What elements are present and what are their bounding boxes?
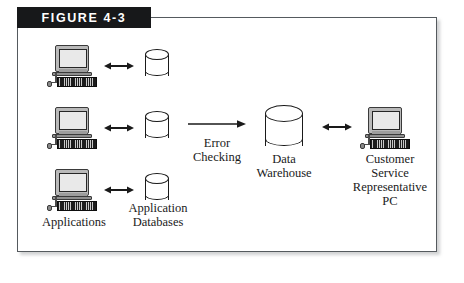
cylinder-side-right: [168, 116, 169, 138]
connector-databases-to-warehouse: [188, 118, 246, 130]
mouse-icon: [47, 205, 52, 211]
cylinder-top-ellipse: [145, 49, 169, 60]
monitor-screen: [372, 111, 400, 130]
connector-ws2-db2: [104, 122, 134, 134]
monitor-icon: [55, 169, 89, 196]
monitor-base: [52, 134, 92, 138]
data-warehouse: [265, 113, 303, 146]
cylinder-side-right: [302, 113, 303, 146]
customer-service-pc-label: Customer Service Representative PC: [337, 152, 443, 208]
connector-ws3-db3: [104, 184, 134, 196]
figure-page: FIGURE 4-3: [0, 0, 464, 283]
keyboard-icon: [57, 139, 97, 149]
cylinder-top-ellipse: [145, 173, 169, 184]
connector-warehouse-to-csr: [322, 121, 352, 133]
mouse-icon: [47, 143, 52, 149]
monitor-screen: [59, 49, 87, 68]
monitor-icon: [55, 45, 89, 72]
cylinder-top-ellipse: [265, 105, 303, 122]
figure-number-label: FIGURE 4-3: [42, 11, 127, 25]
monitor-screen: [59, 111, 87, 130]
monitor-icon: [55, 107, 89, 134]
keyboard-icon: [57, 201, 97, 211]
monitor-screen: [59, 173, 87, 192]
cylinder-side-right: [168, 54, 169, 76]
application-database-1: [145, 54, 169, 76]
application-databases-label: Application Databases: [118, 201, 198, 229]
connector-ws1-db1: [104, 60, 134, 72]
figure-header-bar: FIGURE 4-3: [17, 7, 151, 28]
keyboard-icon: [370, 139, 410, 149]
monitor-base: [52, 72, 92, 76]
application-database-2: [145, 116, 169, 138]
mouse-icon: [47, 81, 52, 87]
monitor-base: [365, 134, 405, 138]
applications-label: Applications: [26, 215, 122, 229]
data-warehouse-label: Data Warehouse: [244, 152, 324, 180]
monitor-base: [52, 196, 92, 200]
cylinder-side-left: [265, 113, 266, 146]
cylinder-top-ellipse: [145, 111, 169, 122]
cylinder-side-right: [168, 178, 169, 200]
application-database-3: [145, 178, 169, 200]
mouse-icon: [360, 143, 365, 149]
keyboard-icon: [57, 77, 97, 87]
monitor-icon: [368, 107, 402, 134]
